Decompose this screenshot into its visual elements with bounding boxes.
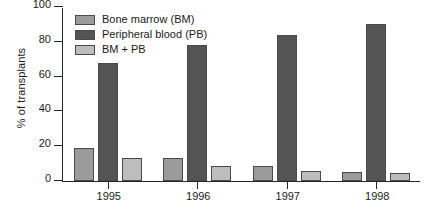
y-axis-tick: 60 — [54, 76, 63, 77]
y-axis-tick: 20 — [54, 145, 63, 146]
bar — [277, 35, 297, 181]
y-axis-tick: 100 — [54, 6, 63, 7]
bar-chart-figure: % of transplants 020406080100 1995199619… — [0, 0, 435, 217]
y-axis-tick: 80 — [54, 41, 63, 42]
legend-item: BM + PB — [75, 42, 207, 57]
legend-label: BM + PB — [102, 44, 146, 55]
x-axis-tick-label: 1998 — [365, 191, 389, 202]
bar — [187, 45, 207, 181]
legend-label: Bone marrow (BM) — [102, 14, 194, 25]
bar — [342, 172, 362, 181]
x-axis-tick-label: 1996 — [186, 191, 210, 202]
y-axis-tick-label: 40 — [39, 103, 51, 114]
y-axis-tick-label: 0 — [45, 173, 51, 184]
x-axis-tick-label: 1997 — [276, 191, 300, 202]
bar — [163, 158, 183, 181]
x-axis-tick: 1995 — [108, 181, 109, 189]
y-axis-tick: 40 — [54, 110, 63, 111]
legend-label: Peripheral blood (PB) — [102, 29, 207, 40]
y-axis-tick-label: 80 — [39, 34, 51, 45]
bar — [74, 148, 94, 181]
bar — [366, 24, 386, 181]
bar — [122, 158, 142, 181]
x-axis-tick: 1997 — [287, 181, 288, 189]
bar — [390, 173, 410, 181]
x-axis-tick: 1998 — [376, 181, 377, 189]
y-axis-tick-label: 60 — [39, 69, 51, 80]
legend-swatch-icon — [75, 15, 95, 25]
bar — [301, 171, 321, 181]
y-axis-title: % of transplants — [15, 23, 27, 153]
x-axis-tick: 1996 — [197, 181, 198, 189]
legend-item: Bone marrow (BM) — [75, 12, 207, 27]
legend-swatch-icon — [75, 45, 95, 55]
chart-legend: Bone marrow (BM)Peripheral blood (PB)BM … — [75, 12, 207, 57]
y-axis-tick-label: 100 — [33, 0, 51, 10]
plot-area: 020406080100 1995199619971998 Bone marro… — [62, 8, 420, 182]
bar — [211, 166, 231, 181]
legend-item: Peripheral blood (PB) — [75, 27, 207, 42]
bar — [253, 166, 273, 181]
bar — [98, 63, 118, 181]
x-axis-tick-label: 1995 — [97, 191, 121, 202]
y-axis-tick: 0 — [54, 180, 63, 181]
y-axis-tick-label: 20 — [39, 138, 51, 149]
legend-swatch-icon — [75, 30, 95, 40]
